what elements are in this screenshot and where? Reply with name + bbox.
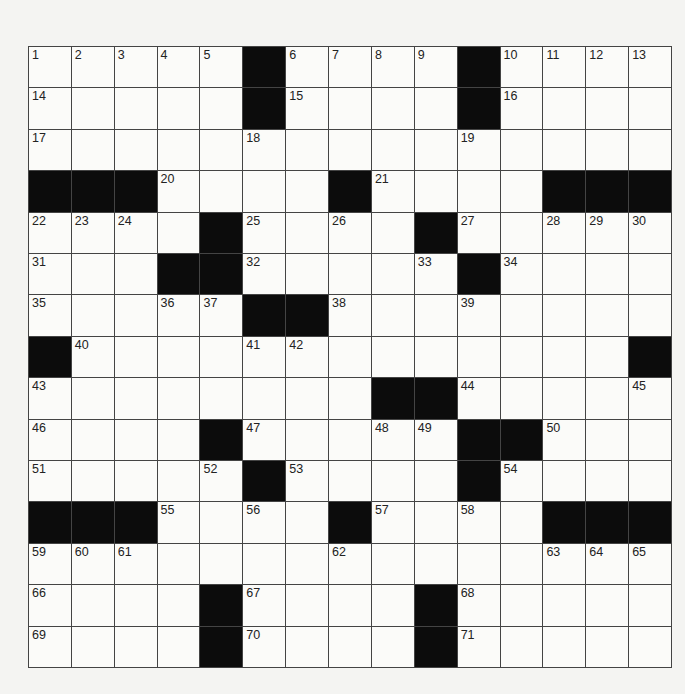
grid-cell[interactable]	[243, 171, 285, 211]
grid-cell[interactable]	[372, 88, 414, 128]
grid-cell[interactable]	[329, 420, 371, 460]
grid-cell[interactable]: 50	[543, 420, 585, 460]
grid-cell[interactable]: 28	[543, 213, 585, 253]
grid-cell[interactable]: 59	[29, 544, 71, 584]
grid-cell[interactable]	[115, 378, 157, 418]
grid-cell[interactable]	[586, 337, 628, 377]
grid-cell[interactable]	[458, 337, 500, 377]
grid-cell[interactable]	[543, 337, 585, 377]
grid-cell[interactable]	[415, 461, 457, 501]
grid-cell[interactable]	[72, 88, 114, 128]
grid-cell[interactable]: 1	[29, 47, 71, 87]
grid-cell[interactable]: 49	[415, 420, 457, 460]
grid-cell[interactable]: 15	[286, 88, 328, 128]
grid-cell[interactable]	[458, 171, 500, 211]
grid-cell[interactable]: 14	[29, 88, 71, 128]
grid-cell[interactable]	[415, 130, 457, 170]
grid-cell[interactable]: 66	[29, 585, 71, 625]
grid-cell[interactable]	[586, 254, 628, 294]
grid-cell[interactable]	[372, 461, 414, 501]
grid-cell[interactable]: 44	[458, 378, 500, 418]
grid-cell[interactable]: 22	[29, 213, 71, 253]
grid-cell[interactable]: 65	[629, 544, 671, 584]
grid-cell[interactable]	[372, 544, 414, 584]
grid-cell[interactable]	[158, 627, 200, 667]
grid-cell[interactable]	[415, 502, 457, 542]
grid-cell[interactable]	[72, 585, 114, 625]
grid-cell[interactable]	[501, 378, 543, 418]
grid-cell[interactable]: 67	[243, 585, 285, 625]
grid-cell[interactable]	[415, 171, 457, 211]
grid-cell[interactable]: 31	[29, 254, 71, 294]
grid-cell[interactable]	[586, 295, 628, 335]
grid-cell[interactable]	[115, 420, 157, 460]
grid-cell[interactable]: 17	[29, 130, 71, 170]
grid-cell[interactable]: 25	[243, 213, 285, 253]
grid-cell[interactable]	[629, 88, 671, 128]
grid-cell[interactable]	[72, 254, 114, 294]
grid-cell[interactable]: 69	[29, 627, 71, 667]
grid-cell[interactable]	[158, 585, 200, 625]
grid-cell[interactable]	[329, 378, 371, 418]
grid-cell[interactable]: 56	[243, 502, 285, 542]
grid-cell[interactable]	[200, 337, 242, 377]
grid-cell[interactable]: 61	[115, 544, 157, 584]
grid-cell[interactable]: 12	[586, 47, 628, 87]
grid-cell[interactable]: 41	[243, 337, 285, 377]
grid-cell[interactable]	[286, 420, 328, 460]
grid-cell[interactable]	[329, 461, 371, 501]
grid-cell[interactable]: 63	[543, 544, 585, 584]
grid-cell[interactable]	[586, 461, 628, 501]
grid-cell[interactable]	[629, 627, 671, 667]
grid-cell[interactable]: 45	[629, 378, 671, 418]
grid-cell[interactable]	[286, 627, 328, 667]
grid-cell[interactable]: 48	[372, 420, 414, 460]
grid-cell[interactable]	[200, 502, 242, 542]
grid-cell[interactable]: 16	[501, 88, 543, 128]
grid-cell[interactable]	[372, 130, 414, 170]
grid-cell[interactable]	[372, 585, 414, 625]
grid-cell[interactable]	[372, 627, 414, 667]
grid-cell[interactable]: 6	[286, 47, 328, 87]
grid-cell[interactable]	[72, 627, 114, 667]
grid-cell[interactable]	[501, 585, 543, 625]
grid-cell[interactable]: 64	[586, 544, 628, 584]
grid-cell[interactable]	[629, 585, 671, 625]
grid-cell[interactable]	[501, 295, 543, 335]
grid-cell[interactable]	[200, 378, 242, 418]
grid-cell[interactable]	[501, 171, 543, 211]
grid-cell[interactable]: 26	[329, 213, 371, 253]
grid-cell[interactable]	[415, 337, 457, 377]
grid-cell[interactable]: 9	[415, 47, 457, 87]
grid-cell[interactable]: 57	[372, 502, 414, 542]
grid-cell[interactable]: 37	[200, 295, 242, 335]
grid-cell[interactable]	[501, 337, 543, 377]
grid-cell[interactable]	[586, 627, 628, 667]
grid-cell[interactable]: 24	[115, 213, 157, 253]
grid-cell[interactable]	[329, 254, 371, 294]
grid-cell[interactable]: 60	[72, 544, 114, 584]
grid-cell[interactable]	[200, 544, 242, 584]
grid-cell[interactable]	[115, 130, 157, 170]
grid-cell[interactable]	[501, 130, 543, 170]
grid-cell[interactable]	[415, 544, 457, 584]
grid-cell[interactable]: 13	[629, 47, 671, 87]
grid-cell[interactable]: 3	[115, 47, 157, 87]
grid-cell[interactable]	[501, 213, 543, 253]
grid-cell[interactable]	[115, 88, 157, 128]
grid-cell[interactable]: 34	[501, 254, 543, 294]
grid-cell[interactable]	[72, 461, 114, 501]
grid-cell[interactable]	[286, 502, 328, 542]
grid-cell[interactable]: 7	[329, 47, 371, 87]
grid-cell[interactable]	[158, 544, 200, 584]
grid-cell[interactable]	[243, 544, 285, 584]
grid-cell[interactable]: 39	[458, 295, 500, 335]
grid-cell[interactable]: 62	[329, 544, 371, 584]
grid-cell[interactable]: 58	[458, 502, 500, 542]
grid-cell[interactable]	[543, 130, 585, 170]
grid-cell[interactable]	[586, 585, 628, 625]
grid-cell[interactable]: 43	[29, 378, 71, 418]
grid-cell[interactable]	[372, 254, 414, 294]
grid-cell[interactable]	[543, 254, 585, 294]
grid-cell[interactable]	[286, 544, 328, 584]
